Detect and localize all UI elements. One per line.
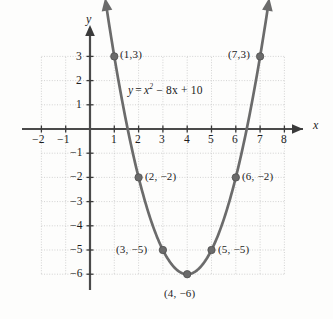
y-axis-label: y (86, 13, 91, 25)
y-tick-label-neg5: −5 (70, 244, 83, 256)
graph-figure: −2 −1 1 2 3 4 5 6 7 8 3 2 1 −1 −2 −3 −4 … (0, 0, 333, 319)
y-tick-label-neg1: −1 (70, 147, 83, 159)
coordinate-plane (0, 0, 333, 319)
x-tick-label-7: 7 (257, 134, 263, 146)
x-tick-label-neg1: −1 (57, 134, 70, 146)
x-axis-label: x (313, 119, 318, 131)
equation-annotation: y=x2− 8x + 10 (128, 85, 203, 97)
x-tick-label-3: 3 (159, 134, 165, 146)
y-tick-label-1: 1 (76, 99, 82, 111)
x-tick-label-neg2: −2 (32, 134, 45, 146)
point-label-7-3: (7,3) (228, 49, 250, 60)
equation-equals: = (135, 84, 142, 96)
y-tick-label-neg2: −2 (70, 171, 83, 183)
equation-remainder: − 8x + 10 (156, 84, 202, 96)
point-label-1-3: (1,3) (120, 49, 142, 60)
curve-arrowhead (262, 0, 273, 11)
y-tick-label-neg3: −3 (70, 196, 83, 208)
x-tick-label-6: 6 (232, 134, 238, 146)
x-tick-label-2: 2 (135, 134, 141, 146)
data-point (256, 53, 263, 60)
data-point (184, 271, 191, 278)
point-label-3-neg5: (3, −5) (116, 244, 147, 255)
data-point (135, 174, 142, 181)
point-label-5-neg5: (5, −5) (218, 244, 249, 255)
x-tick-label-1: 1 (111, 134, 117, 146)
y-tick-label-2: 2 (76, 75, 82, 87)
curve-arrowheads (102, 0, 273, 11)
y-tick-label-neg6: −6 (70, 268, 83, 280)
equation-exponent: 2 (149, 82, 153, 91)
data-point (208, 246, 215, 253)
data-point (232, 174, 239, 181)
x-tick-label-5: 5 (208, 134, 214, 146)
equation-lhs: y (128, 84, 133, 96)
y-tick-label-3: 3 (76, 51, 82, 63)
curve-arrowhead (102, 0, 113, 11)
point-label-6-neg2: (6, −2) (242, 171, 273, 182)
data-point (111, 53, 118, 60)
x-tick-label-4: 4 (184, 134, 190, 146)
point-label-2-neg2: (2, −2) (145, 171, 176, 182)
x-tick-label-8: 8 (281, 134, 287, 146)
y-tick-label-neg4: −4 (70, 220, 83, 232)
point-label-4-neg6: (4, −6) (164, 288, 195, 299)
data-point (159, 246, 166, 253)
